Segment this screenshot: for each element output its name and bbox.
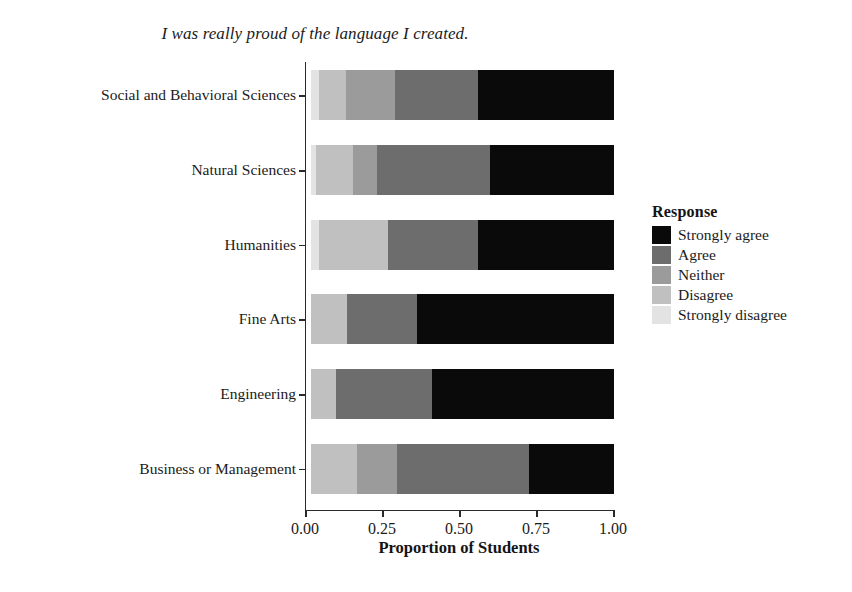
- bar-row: [311, 70, 614, 120]
- bar-segment: [388, 220, 479, 270]
- bar-segment: [311, 294, 347, 344]
- bar-segment: [311, 70, 319, 120]
- bar-segment: [357, 444, 397, 494]
- x-axis-tick: [305, 510, 307, 517]
- legend-item[interactable]: Neither: [652, 265, 848, 285]
- legend-swatch-icon: [652, 306, 671, 324]
- bar-segment: [395, 70, 479, 120]
- bar-segment: [319, 70, 346, 120]
- chart-figure: I was really proud of the language I cre…: [0, 0, 852, 592]
- bar-segment: [316, 145, 354, 195]
- bar-segment: [478, 70, 614, 120]
- bar-segment: [490, 145, 614, 195]
- bar-segment: [311, 220, 319, 270]
- y-axis-ticks: [0, 62, 320, 510]
- bar-segment: [397, 444, 529, 494]
- legend-item[interactable]: Strongly agree: [652, 225, 848, 245]
- legend-item[interactable]: Strongly disagree: [652, 305, 848, 325]
- bar-segment: [311, 369, 336, 419]
- x-axis-title: Proportion of Students: [305, 538, 613, 558]
- bar-row: [311, 145, 614, 195]
- bar-segment: [346, 70, 395, 120]
- bar-segment: [353, 145, 377, 195]
- bar-row: [311, 444, 614, 494]
- x-axis-tick-label: 0.50: [445, 520, 473, 538]
- bar-segment: [417, 294, 614, 344]
- legend-label: Neither: [678, 267, 724, 283]
- bar-segment: [478, 220, 614, 270]
- x-axis-tick: [459, 510, 461, 517]
- legend-swatch-icon: [652, 246, 671, 264]
- legend-label: Disagree: [678, 287, 733, 303]
- x-axis-tick-label: 1.00: [599, 520, 627, 538]
- bar-row: [311, 220, 614, 270]
- bar-segment: [432, 369, 614, 419]
- legend-swatch-icon: [652, 226, 671, 244]
- bar-segment: [529, 444, 614, 494]
- bar-row: [311, 369, 614, 419]
- x-axis-tick-label: 0.25: [368, 520, 396, 538]
- x-axis-tick-label: 0.75: [522, 520, 550, 538]
- x-axis-tick: [613, 510, 615, 517]
- legend-label: Strongly disagree: [678, 307, 787, 323]
- x-axis-tick: [382, 510, 384, 517]
- bar-row: [311, 294, 614, 344]
- chart-title: I was really proud of the language I cre…: [0, 24, 630, 44]
- legend-swatch-icon: [652, 266, 671, 284]
- plot-area: [305, 62, 614, 511]
- x-axis-tick: [536, 510, 538, 517]
- bar-segment: [319, 220, 388, 270]
- legend-swatch-icon: [652, 286, 671, 304]
- bar-segment: [347, 294, 417, 344]
- legend-items: Strongly agreeAgreeNeitherDisagreeStrong…: [652, 225, 848, 325]
- legend-item[interactable]: Agree: [652, 245, 848, 265]
- legend-title: Response: [652, 203, 848, 221]
- x-axis-tick-label: 0.00: [291, 520, 319, 538]
- chart-legend: Response Strongly agreeAgreeNeitherDisag…: [652, 203, 848, 325]
- bar-segment: [336, 369, 433, 419]
- bar-segment: [377, 145, 490, 195]
- legend-label: Agree: [678, 247, 716, 263]
- legend-label: Strongly agree: [678, 227, 769, 243]
- bar-segment: [311, 444, 357, 494]
- legend-item[interactable]: Disagree: [652, 285, 848, 305]
